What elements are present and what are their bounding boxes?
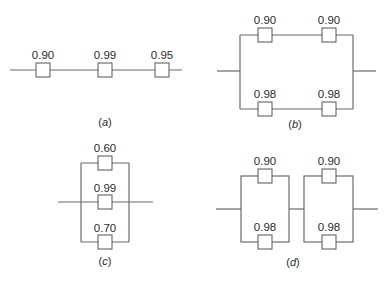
- component-block: [258, 235, 272, 249]
- component-value: 0.90: [318, 155, 340, 167]
- component-value: 0.60: [94, 142, 116, 154]
- component-block: [258, 169, 272, 183]
- component-block: [98, 195, 112, 209]
- diagram-b: 0.90 0.90 0.98 0.98 (b): [217, 14, 376, 130]
- component-value: 0.90: [32, 49, 54, 61]
- diagram-a: 0.90 0.99 0.95 (a): [10, 49, 182, 128]
- component-block: [322, 102, 336, 116]
- diagram-c: 0.60 0.99 0.70 (c): [58, 142, 153, 267]
- component-value: 0.98: [318, 88, 340, 100]
- component-value: 0.98: [254, 88, 276, 100]
- caption-c: (c): [99, 255, 112, 267]
- component-block: [155, 63, 169, 77]
- component-value: 0.99: [94, 182, 116, 194]
- component-value: 0.90: [318, 14, 340, 26]
- caption-a: (a): [98, 116, 111, 128]
- component-block: [322, 169, 336, 183]
- component-block: [98, 156, 112, 170]
- diagram-d: 0.90 0.98 0.90 0.98 (d): [216, 155, 378, 268]
- caption-b: (b): [288, 118, 301, 130]
- component-value: 0.98: [254, 221, 276, 233]
- component-block: [36, 63, 50, 77]
- caption-d: (d): [286, 256, 299, 268]
- component-block: [98, 235, 112, 249]
- component-value: 0.98: [318, 221, 340, 233]
- component-block: [258, 102, 272, 116]
- component-block: [322, 235, 336, 249]
- component-block: [98, 63, 112, 77]
- component-value: 0.99: [94, 49, 116, 61]
- reliability-block-diagrams: 0.90 0.99 0.95 (a) 0.90 0.90 0.98 0.98 (…: [0, 0, 389, 281]
- component-value: 0.90: [254, 14, 276, 26]
- component-block: [322, 28, 336, 42]
- component-block: [258, 28, 272, 42]
- component-value: 0.95: [151, 49, 173, 61]
- component-value: 0.70: [94, 222, 116, 234]
- component-value: 0.90: [254, 155, 276, 167]
